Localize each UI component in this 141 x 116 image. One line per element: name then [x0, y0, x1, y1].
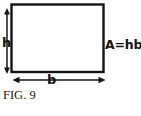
base-dimension-arrow — [13, 77, 106, 83]
figure-caption: FIG. 9 — [3, 89, 36, 102]
figure-container: h b A=hb FIG. 9 — [0, 0, 141, 116]
base-label: b — [47, 73, 56, 86]
area-formula-label: A=hb — [105, 39, 141, 52]
height-label: h — [2, 36, 11, 49]
rectangle-shape — [12, 5, 104, 73]
